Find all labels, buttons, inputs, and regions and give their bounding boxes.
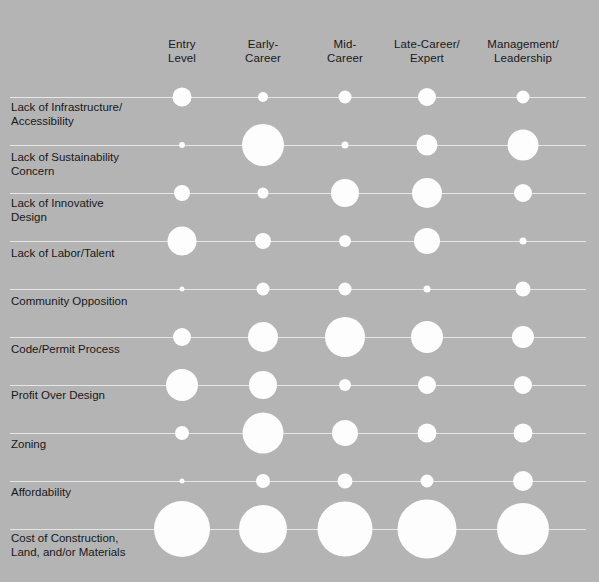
bubble-r7-c1[interactable] <box>243 413 284 454</box>
bubble-r8-c0[interactable] <box>180 479 185 484</box>
bubble-r5-c1[interactable] <box>248 322 278 352</box>
bubble-r0-c3[interactable] <box>418 88 436 106</box>
gridline-row-6 <box>10 385 586 386</box>
bubble-r3-c0[interactable] <box>168 227 197 256</box>
bubble-r2-c4[interactable] <box>514 184 532 202</box>
bubble-r0-c0[interactable] <box>173 88 192 107</box>
bubble-r5-c4[interactable] <box>512 326 534 348</box>
row-label-8: Affordability <box>11 486 161 500</box>
bubble-r7-c2[interactable] <box>332 420 358 446</box>
bubble-r7-c0[interactable] <box>175 426 189 440</box>
row-label-6: Profit Over Design <box>11 389 161 403</box>
bubble-r1-c1[interactable] <box>242 124 284 166</box>
gridline-row-1 <box>10 145 586 146</box>
bubble-r1-c2[interactable] <box>342 142 349 149</box>
gridline-row-7 <box>10 433 586 434</box>
bubble-r6-c4[interactable] <box>514 376 532 394</box>
bubble-r2-c0[interactable] <box>174 185 190 201</box>
bubble-r6-c3[interactable] <box>418 376 436 394</box>
bubble-r4-c1[interactable] <box>257 283 270 296</box>
bubble-r8-c1[interactable] <box>256 474 270 488</box>
bubble-r5-c2[interactable] <box>325 317 365 357</box>
bubble-chart: Entry LevelEarly- CareerMid- CareerLate-… <box>0 0 599 582</box>
bubble-r8-c4[interactable] <box>513 471 533 491</box>
bubble-r1-c0[interactable] <box>179 142 185 148</box>
bubble-r9-c3[interactable] <box>398 500 457 559</box>
bubble-r6-c2[interactable] <box>339 379 351 391</box>
column-header-1: Early- Career <box>245 38 281 65</box>
bubble-r8-c2[interactable] <box>338 474 353 489</box>
bubble-r0-c4[interactable] <box>517 91 530 104</box>
bubble-r8-c3[interactable] <box>421 475 434 488</box>
bubble-r4-c3[interactable] <box>424 286 431 293</box>
column-header-3: Late-Career/ Expert <box>394 38 460 65</box>
row-label-7: Zoning <box>11 438 161 452</box>
column-header-4: Management/ Leadership <box>487 38 558 65</box>
bubble-r6-c0[interactable] <box>166 369 198 401</box>
gridline-row-4 <box>10 289 586 290</box>
bubble-r9-c1[interactable] <box>239 505 287 553</box>
bubble-r9-c4[interactable] <box>497 503 549 555</box>
row-label-9: Cost of Construction, Land, and/or Mater… <box>11 532 161 559</box>
column-header-2: Mid- Career <box>327 38 363 65</box>
bubble-r2-c1[interactable] <box>258 188 269 199</box>
gridline-row-5 <box>10 337 586 338</box>
row-label-0: Lack of Infrastructure/ Accessibility <box>11 101 161 128</box>
bubble-r0-c2[interactable] <box>339 91 352 104</box>
bubble-r3-c3[interactable] <box>414 228 440 254</box>
bubble-r9-c0[interactable] <box>154 501 210 557</box>
row-label-3: Lack of Labor/Talent <box>11 247 161 261</box>
gridline-row-2 <box>10 193 586 194</box>
bubble-r1-c4[interactable] <box>508 130 539 161</box>
bubble-r1-c3[interactable] <box>417 135 438 156</box>
gridline-row-8 <box>10 481 586 482</box>
bubble-r7-c3[interactable] <box>418 424 437 443</box>
row-label-2: Lack of Innovative Design <box>11 197 161 224</box>
bubble-r7-c4[interactable] <box>514 424 533 443</box>
row-label-5: Code/Permit Process <box>11 343 161 357</box>
gridline-row-0 <box>10 97 586 98</box>
bubble-r6-c1[interactable] <box>249 371 277 399</box>
bubble-r3-c2[interactable] <box>339 235 351 247</box>
bubble-r5-c3[interactable] <box>411 321 443 353</box>
bubble-r4-c0[interactable] <box>180 287 185 292</box>
bubble-r3-c1[interactable] <box>255 233 271 249</box>
bubble-r9-c2[interactable] <box>318 502 373 557</box>
row-label-4: Community Opposition <box>11 295 161 309</box>
column-header-0: Entry Level <box>168 38 196 65</box>
bubble-r2-c3[interactable] <box>412 178 442 208</box>
bubble-r0-c1[interactable] <box>258 92 268 102</box>
gridline-row-3 <box>10 241 586 242</box>
bubble-r4-c2[interactable] <box>339 283 352 296</box>
bubble-r3-c4[interactable] <box>520 238 527 245</box>
bubble-r2-c2[interactable] <box>331 179 359 207</box>
bubble-r5-c0[interactable] <box>173 328 191 346</box>
bubble-r4-c4[interactable] <box>516 282 531 297</box>
row-label-1: Lack of Sustainability Concern <box>11 151 161 178</box>
